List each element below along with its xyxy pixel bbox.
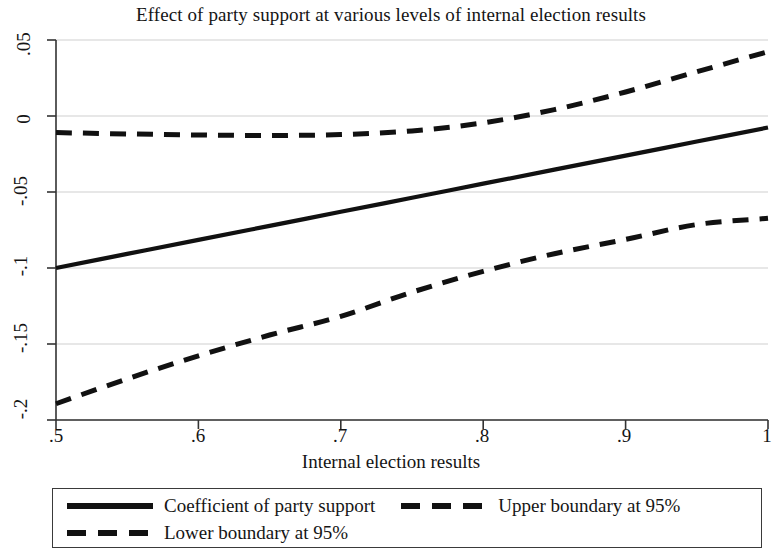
legend-label-upper-boundary: Upper boundary at 95%: [498, 495, 680, 517]
legend-swatch-solid-coefficient: [67, 503, 153, 509]
legend: Coefficient of party support Upper bound…: [52, 488, 762, 548]
legend-entry-upper-boundary[interactable]: Upper boundary at 95%: [401, 492, 680, 520]
legend-label-lower-boundary: Lower boundary at 95%: [164, 522, 348, 544]
legend-row-2: Lower boundary at 95%: [67, 519, 348, 547]
series-line-1: [56, 52, 768, 136]
legend-label-coefficient: Coefficient of party support: [164, 495, 375, 517]
series-line-0: [56, 128, 768, 268]
data-series-group: [56, 52, 768, 404]
x-axis-ticks: [56, 420, 768, 429]
legend-row-1: Coefficient of party support Upper bound…: [67, 492, 680, 520]
legend-entry-lower-boundary[interactable]: Lower boundary at 95%: [67, 519, 348, 547]
legend-swatch-dashed-upper: [401, 503, 487, 509]
y-axis-ticks: [47, 40, 56, 420]
chart-figure: Effect of party support at various level…: [0, 0, 782, 553]
legend-entry-coefficient[interactable]: Coefficient of party support: [67, 492, 375, 520]
legend-swatch-dashed-lower: [67, 530, 153, 536]
plot-canvas: [0, 0, 782, 553]
